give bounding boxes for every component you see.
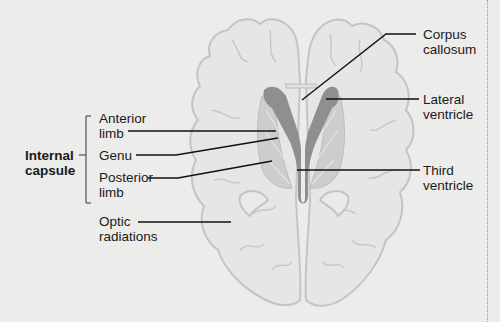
label-line: Genu [99,148,132,163]
label-line: Optic [99,214,158,229]
label-line: Corpus [423,27,476,42]
label-line: ventricle [423,107,473,122]
label-posterior-limb: Posterior limb [99,170,153,200]
label-line: Third [423,163,473,178]
label-line: limb [99,126,146,141]
label-line: capsule [25,163,75,178]
label-optic-radiations: Optic radiations [99,214,158,244]
label-line: callosum [423,42,476,57]
label-line: Posterior [99,170,153,185]
label-line: Lateral [423,92,473,107]
label-third-ventricle: Third ventricle [423,163,473,193]
label-line: ventricle [423,178,473,193]
label-corpus-callosum: Corpus callosum [423,27,476,57]
label-lateral-ventricle: Lateral ventricle [423,92,473,122]
internal-capsule-bracket [79,116,91,203]
page-edge-divider [487,0,488,322]
label-line: Internal [25,148,75,163]
label-line: Anterior [99,111,146,126]
label-internal-capsule: Internal capsule [25,148,75,178]
label-anterior-limb: Anterior limb [99,111,146,141]
label-line: limb [99,185,153,200]
diagram-stage: Internal capsule Anterior limb Genu Post… [0,0,500,322]
label-line: radiations [99,229,158,244]
corpus-callosum-band [286,84,316,88]
label-genu: Genu [99,148,132,163]
